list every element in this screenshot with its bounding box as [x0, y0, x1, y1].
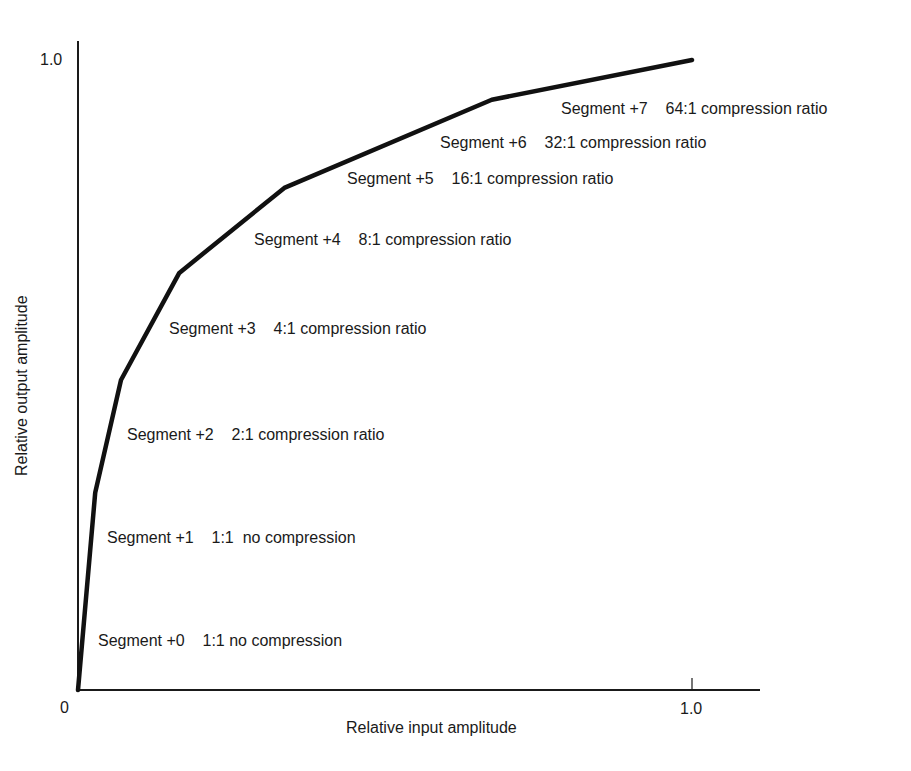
- segment-2-label: Segment +2 2:1 compression ratio: [127, 427, 384, 443]
- segment-4-label: Segment +4 8:1 compression ratio: [254, 232, 511, 248]
- y-tick-label-max: 1.0: [40, 52, 62, 68]
- origin-label: 0: [60, 700, 69, 716]
- segment-0-label: Segment +0 1:1 no compression: [98, 633, 342, 649]
- segment-5-label: Segment +5 16:1 compression ratio: [347, 171, 613, 187]
- segment-6-label: Segment +6 32:1 compression ratio: [440, 135, 706, 151]
- x-axis-title: Relative input amplitude: [346, 720, 517, 736]
- x-tick-label-max: 1.0: [680, 701, 702, 717]
- segment-3-label: Segment +3 4:1 compression ratio: [169, 321, 426, 337]
- compression-curve: [78, 60, 692, 690]
- y-axis-title: Relative output amplitude: [14, 295, 30, 476]
- segment-1-label: Segment +1 1:1 no compression: [107, 530, 356, 546]
- segment-7-label: Segment +7 64:1 compression ratio: [561, 101, 827, 117]
